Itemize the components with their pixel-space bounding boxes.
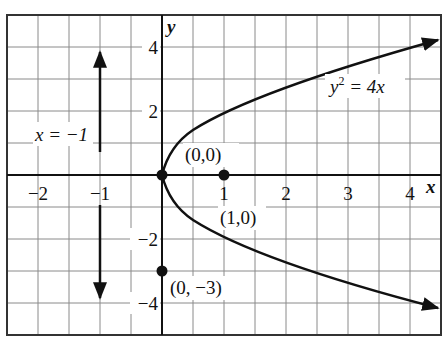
x-axis-label: x xyxy=(425,176,436,197)
x-tick-1: 1 xyxy=(219,183,229,204)
x-tick-3: 3 xyxy=(343,183,353,204)
y-axis-label: y xyxy=(165,16,176,37)
vertex-point xyxy=(157,170,168,181)
point-0-neg3 xyxy=(157,266,168,277)
x-tick-4: 4 xyxy=(405,183,415,204)
x-tick-neg1: −1 xyxy=(90,183,110,204)
y-tick-4: 4 xyxy=(149,37,159,58)
focus-label: (1,0) xyxy=(220,207,256,229)
point-label: (0, −3) xyxy=(170,277,222,299)
y-tick-neg2: −2 xyxy=(138,229,158,250)
x-tick-neg2: −2 xyxy=(28,183,48,204)
parabola-chart: −2 −1 1 2 3 4 4 2 −2 −4 y x y2 = 4x x = … xyxy=(0,0,442,337)
vertex-label: (0,0) xyxy=(185,144,221,166)
x-tick-2: 2 xyxy=(281,183,291,204)
y-tick-2: 2 xyxy=(149,101,159,122)
y-tick-neg4: −4 xyxy=(138,293,159,314)
focus-point xyxy=(219,170,230,181)
directrix-label: x = −1 xyxy=(34,124,88,145)
curve-equation-label: y2 = 4x xyxy=(328,74,385,97)
